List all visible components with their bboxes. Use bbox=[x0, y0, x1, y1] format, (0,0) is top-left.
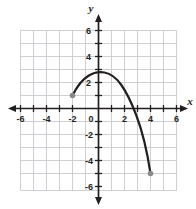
x-tick-label-2: 2 bbox=[122, 114, 127, 124]
y-tick-label-neg6: -6 bbox=[85, 182, 93, 192]
x-tick-label-neg6: -6 bbox=[16, 114, 24, 124]
x-tick-label-neg4: -4 bbox=[42, 114, 50, 124]
x-axis-label: x bbox=[186, 95, 193, 107]
y-axis-label: y bbox=[87, 2, 94, 14]
y-axis-up-arrow bbox=[95, 14, 102, 22]
x-tick-label-4: 4 bbox=[148, 114, 153, 124]
curve-left-endpoint-dot bbox=[70, 93, 76, 99]
y-tick-label-neg4: -4 bbox=[85, 156, 93, 166]
curve-right-endpoint-dot bbox=[148, 171, 154, 177]
coordinate-graph-figure: -6 -4 -2 0 2 4 6 6 4 2 -2 -4 -6 y x bbox=[0, 0, 196, 209]
y-axis bbox=[95, 14, 102, 205]
x-tick-label-6: 6 bbox=[174, 114, 179, 124]
y-axis-down-arrow bbox=[95, 197, 102, 205]
y-tick-label-4: 4 bbox=[86, 52, 91, 62]
y-tick-label-2: 2 bbox=[86, 78, 91, 88]
x-tick-label-neg2: -2 bbox=[68, 114, 76, 124]
y-tick-label-neg2: -2 bbox=[85, 130, 93, 140]
y-tick-label-6: 6 bbox=[86, 26, 91, 36]
x-axis-left-arrow bbox=[8, 105, 16, 112]
coordinate-plane-svg: -6 -4 -2 0 2 4 6 6 4 2 -2 -4 -6 y x bbox=[0, 0, 196, 209]
x-tick-label-0: 0 bbox=[88, 114, 93, 124]
